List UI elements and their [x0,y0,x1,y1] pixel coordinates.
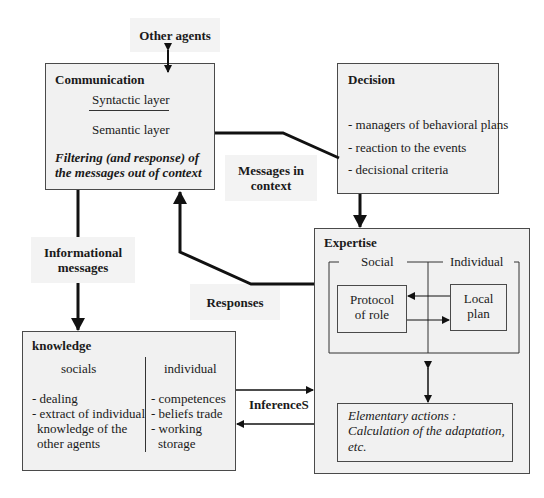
connector-lines [0,0,544,498]
